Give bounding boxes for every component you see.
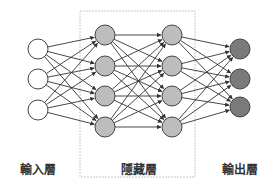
connection-arrow xyxy=(180,55,231,90)
connection-arrow xyxy=(111,44,166,119)
hidden2-neuron xyxy=(162,25,182,45)
input-neuron xyxy=(28,69,48,89)
connection-arrow xyxy=(182,110,230,124)
output-layer-label: 輸出層 xyxy=(222,160,258,177)
input-neuron xyxy=(28,100,48,120)
hidden2-neuron xyxy=(162,117,182,137)
output-neuron xyxy=(230,69,250,89)
hidden1-neuron xyxy=(95,56,115,76)
connections xyxy=(45,35,233,127)
input-neuron xyxy=(28,39,48,59)
hidden1-neuron xyxy=(95,25,115,45)
output-neuron xyxy=(230,97,250,117)
connection-arrow xyxy=(179,57,233,119)
hidden-layer-label: 隱藏層 xyxy=(121,160,157,177)
output-neuron xyxy=(230,39,250,59)
connection-arrow xyxy=(182,37,229,47)
hidden2-neuron xyxy=(162,86,182,106)
input-layer-label: 輸入層 xyxy=(20,160,56,177)
hidden1-neuron xyxy=(95,117,115,137)
connection-arrow xyxy=(45,43,98,102)
hidden1-neuron xyxy=(95,86,115,106)
hidden2-neuron xyxy=(162,56,182,76)
connection-arrow xyxy=(182,98,229,106)
connection-arrow xyxy=(180,85,231,121)
connection-arrow xyxy=(48,37,94,47)
